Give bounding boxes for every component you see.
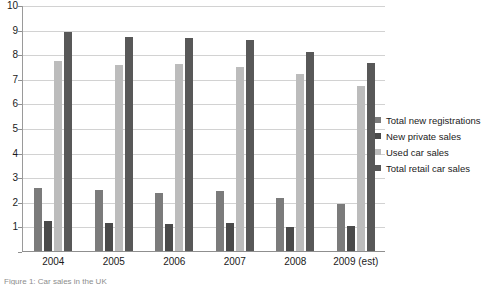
y-axis-tick xyxy=(18,227,22,228)
bar xyxy=(236,67,244,251)
bar-group xyxy=(265,6,326,251)
y-axis-tick xyxy=(18,104,22,105)
legend-swatch-icon xyxy=(375,117,381,123)
legend-item: Total retail car sales xyxy=(375,160,486,176)
bar xyxy=(185,38,193,251)
bar xyxy=(347,226,355,251)
y-axis-tick xyxy=(18,252,22,253)
bar xyxy=(155,193,163,251)
bar xyxy=(226,223,234,251)
bar xyxy=(115,65,123,251)
plot-area xyxy=(22,6,385,252)
legend-swatch-icon xyxy=(375,133,381,139)
bar xyxy=(105,223,113,251)
bar xyxy=(44,221,52,251)
bar-chart: 12345678910 200420052006200720082009 (es… xyxy=(0,0,486,285)
legend-item: Used car sales xyxy=(375,144,486,160)
bar-group xyxy=(23,6,84,251)
y-axis-tick xyxy=(18,178,22,179)
bar-groups xyxy=(23,6,385,251)
legend-item-label: Total new registrations xyxy=(386,115,481,126)
bar xyxy=(337,204,345,251)
x-axis-tick-label: 2006 xyxy=(144,256,205,268)
legend-item-label: Total retail car sales xyxy=(386,163,470,174)
y-axis-tick xyxy=(18,129,22,130)
y-axis-labels: 12345678910 xyxy=(0,6,18,252)
bar xyxy=(54,61,62,251)
legend-item-label: Used car sales xyxy=(386,147,449,158)
bar xyxy=(246,40,254,251)
bar xyxy=(95,190,103,251)
bar xyxy=(357,86,365,251)
chart-legend: Total new registrationsNew private sales… xyxy=(375,112,486,176)
x-axis-labels: 200420052006200720082009 (est) xyxy=(23,256,386,270)
legend-item: New private sales xyxy=(375,128,486,144)
bar xyxy=(276,198,284,251)
y-axis-tick-label: 10 xyxy=(7,1,18,11)
x-axis-tick-label: 2005 xyxy=(84,256,145,268)
figure-caption: Figure 1: Car sales in the UK xyxy=(4,277,107,285)
bar-group xyxy=(144,6,205,251)
x-axis-line xyxy=(22,251,385,252)
bar-group xyxy=(84,6,145,251)
legend-item: Total new registrations xyxy=(375,112,486,128)
y-axis-tick xyxy=(18,55,22,56)
bar xyxy=(306,52,314,251)
y-axis-tick xyxy=(18,80,22,81)
legend-swatch-icon xyxy=(375,165,381,171)
bar xyxy=(125,37,133,251)
bar xyxy=(64,32,72,251)
y-axis-tick xyxy=(18,31,22,32)
bar-group xyxy=(205,6,266,251)
bar xyxy=(216,191,224,251)
bar xyxy=(296,74,304,251)
bar xyxy=(286,227,294,251)
bar xyxy=(367,63,375,251)
x-axis-tick-label: 2004 xyxy=(23,256,84,268)
x-axis-tick-label: 2009 (est) xyxy=(326,256,387,268)
bar xyxy=(175,64,183,251)
y-axis-tick xyxy=(18,154,22,155)
legend-item-label: New private sales xyxy=(386,131,461,142)
bar xyxy=(34,188,42,251)
y-axis-tick xyxy=(18,6,22,7)
x-axis-tick-label: 2008 xyxy=(265,256,326,268)
legend-swatch-icon xyxy=(375,149,381,155)
y-axis-tick xyxy=(18,203,22,204)
x-axis-tick-label: 2007 xyxy=(205,256,266,268)
bar xyxy=(165,224,173,251)
